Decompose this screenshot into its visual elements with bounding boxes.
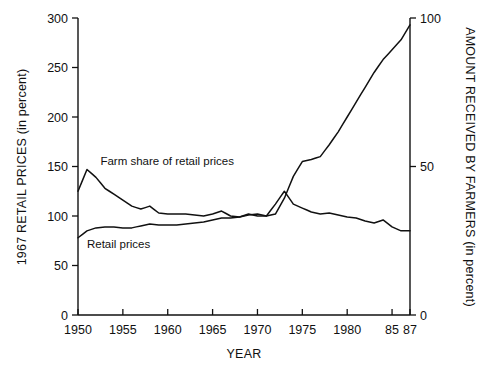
left-tick-label: 300 (47, 12, 68, 26)
x-tick-label: 1955 (109, 323, 137, 337)
left-tick-label: 150 (47, 160, 68, 174)
right-tick-label: 100 (420, 12, 441, 26)
series-annotation: Farm share of retail prices (100, 155, 234, 167)
chart-background (0, 0, 492, 373)
right-tick-label: 50 (420, 160, 434, 174)
left-tick-label: 200 (47, 111, 68, 125)
x-tick-label: 1980 (333, 323, 361, 337)
left-tick-label: 50 (54, 259, 68, 273)
x-tick-label: 1975 (288, 323, 316, 337)
right-tick-label: 0 (420, 309, 427, 323)
x-tick-label: 1970 (244, 323, 272, 337)
x-tick-label: 1960 (154, 323, 182, 337)
left-tick-label: 0 (61, 309, 68, 323)
series-annotation: Retail prices (87, 238, 151, 250)
left-tick-label: 250 (47, 61, 68, 75)
right-axis-title: AMOUNT RECEIVED BY FARMERS (in percent) (463, 27, 477, 307)
chart-figure: 050100150200250300 050100 19501955196019… (0, 0, 492, 373)
left-axis-title: 1967 RETAIL PRICES (in percent) (15, 69, 29, 266)
x-axis-title: YEAR (227, 347, 262, 361)
left-tick-label: 100 (47, 210, 68, 224)
x-tick-label: 1950 (64, 323, 92, 337)
x-tick-label: 1965 (199, 323, 227, 337)
line-chart-canvas: 050100150200250300 050100 19501955196019… (0, 0, 492, 373)
x-tick-label: 87 (403, 323, 417, 337)
x-tick-label: 85 (385, 323, 399, 337)
